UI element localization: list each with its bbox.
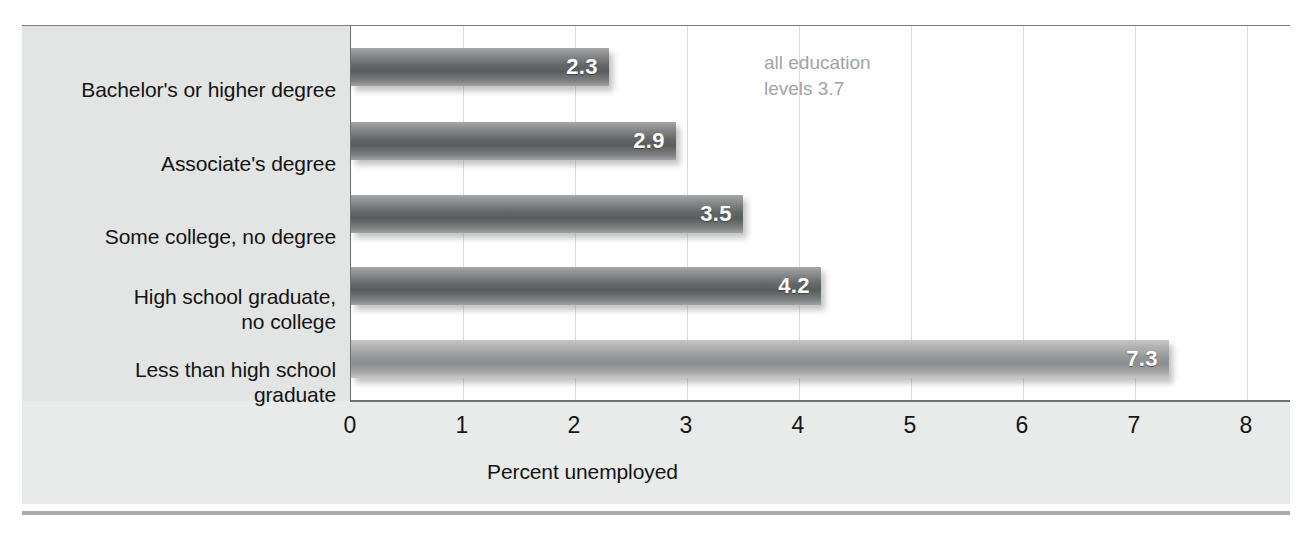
bar-some-college[interactable]: 3.5 xyxy=(351,195,743,233)
category-label-less-than-hs: Less than high school graduate xyxy=(36,357,336,407)
bar-value-high-school-grad: 4.2 xyxy=(778,273,810,299)
xtick-3: 3 xyxy=(666,412,706,439)
bar-less-than-hs[interactable]: 7.3 xyxy=(351,340,1169,378)
xtick-4: 4 xyxy=(778,412,818,439)
bar-bachelors[interactable]: 2.3 xyxy=(351,48,609,86)
category-label-some-college: Some college, no degree xyxy=(36,224,336,249)
xtick-7: 7 xyxy=(1114,412,1154,439)
bar-value-bachelors: 2.3 xyxy=(566,54,598,80)
category-label-high-school-grad: High school graduate, no college xyxy=(36,284,336,334)
bar-value-some-college: 3.5 xyxy=(700,201,732,227)
xtick-6: 6 xyxy=(1002,412,1042,439)
category-label-column: Bachelor's or higher degree Associate's … xyxy=(22,26,350,401)
xtick-5: 5 xyxy=(890,412,930,439)
xtick-8: 8 xyxy=(1226,412,1266,439)
category-label-associates: Associate's degree xyxy=(36,151,336,176)
bar-value-less-than-hs: 7.3 xyxy=(1126,346,1158,372)
plot-area: 2.3 2.9 3.5 4.2 7.3 all education levels… xyxy=(350,26,1290,400)
xtick-0: 0 xyxy=(330,412,370,439)
gridline-8 xyxy=(1247,26,1248,400)
annotation-all-education-levels: all education levels 3.7 xyxy=(764,50,871,102)
bar-high-school-grad[interactable]: 4.2 xyxy=(351,267,821,305)
x-axis-title: Percent unemployed xyxy=(487,460,678,484)
bar-value-associates: 2.9 xyxy=(633,128,665,154)
category-label-bachelors: Bachelor's or higher degree xyxy=(36,77,336,102)
bar-associates[interactable]: 2.9 xyxy=(351,122,676,160)
xtick-2: 2 xyxy=(554,412,594,439)
bottom-rule xyxy=(22,511,1290,515)
x-axis-line xyxy=(350,400,1290,402)
xtick-1: 1 xyxy=(442,412,482,439)
chart-figure: Bachelor's or higher degree Associate's … xyxy=(0,0,1310,534)
